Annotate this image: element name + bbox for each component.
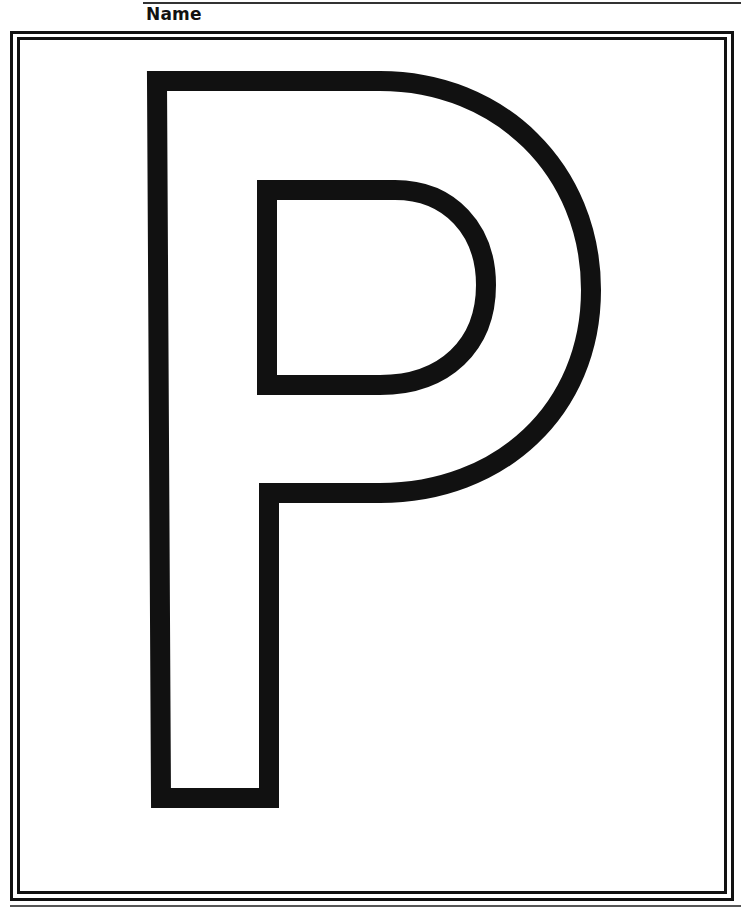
- letter-p-stroke: [157, 81, 591, 798]
- letter-p-outline: [0, 0, 744, 913]
- bottom-rule: [10, 905, 741, 907]
